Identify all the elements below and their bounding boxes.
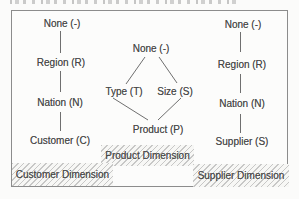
product-dimension-label: Product Dimension	[101, 145, 194, 166]
supplier-dimension-label: Supplier Dimension	[193, 164, 289, 187]
customer-node-none: None (-)	[44, 18, 81, 29]
supplier-node-nation: Nation (N)	[219, 98, 265, 109]
customer-node-region: Region (R)	[37, 57, 85, 68]
edge-product-size-product	[158, 98, 181, 120]
customer-node-nation: Nation (N)	[37, 97, 83, 108]
supplier-node-supplier: Supplier (S)	[216, 136, 269, 147]
scanned-figure: None (-) Region (R) Nation (N) Customer …	[0, 0, 299, 199]
supplier-node-region: Region (R)	[218, 59, 266, 70]
product-node-none: None (-)	[133, 43, 170, 54]
edge-product-type-product	[113, 98, 148, 120]
customer-dimension-label: Customer Dimension	[12, 163, 113, 186]
product-node-type: Type (T)	[105, 86, 142, 97]
edge-product-none-size	[159, 57, 177, 83]
edge-product-none-type	[126, 57, 145, 84]
product-node-product: Product (P)	[133, 124, 184, 135]
supplier-node-none: None (-)	[225, 19, 262, 30]
customer-node-customer: Customer (C)	[30, 135, 90, 146]
product-node-size: Size (S)	[157, 86, 193, 97]
